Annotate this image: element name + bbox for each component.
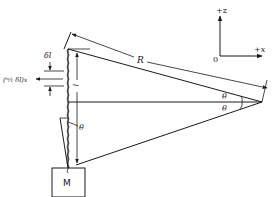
lower-angle-arc (240, 102, 242, 109)
displacement-label: (ᵐ⁄₁ δl)x (3, 76, 28, 84)
upper-ray (68, 49, 262, 102)
lower-ray (76, 102, 262, 165)
diagram-canvas: +z +x 0 l R θ θ θ δl (ᵐ⁄₁ δl)x M (0, 0, 277, 197)
length-label: l (71, 84, 79, 86)
distance-label: R (136, 55, 144, 65)
delta-l-label: δl (44, 51, 52, 60)
left-angle-leader (68, 122, 78, 126)
origin-label: 0 (213, 55, 218, 64)
r-end-tick (262, 80, 267, 102)
mass-label: M (63, 178, 71, 188)
coordinate-axes: +z +x 0 (213, 6, 266, 64)
r-line-left (72, 34, 134, 57)
left-angle-label: θ (79, 123, 84, 132)
x-axis-label: +x (254, 45, 266, 54)
upper-angle-label: θ (222, 92, 227, 101)
rod-top (64, 32, 71, 49)
z-axis-label: +z (216, 6, 227, 15)
lower-angle-label: θ (222, 104, 227, 113)
tilted-rod (60, 118, 68, 168)
